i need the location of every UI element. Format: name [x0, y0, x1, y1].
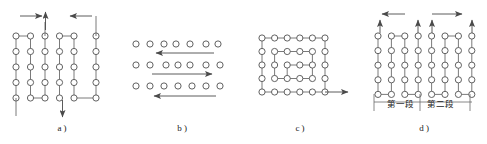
conductor-node — [13, 64, 19, 70]
conductor-node — [284, 62, 290, 68]
conductor-node — [429, 62, 435, 68]
conductor-node — [469, 48, 475, 54]
conductor-node — [455, 48, 461, 54]
conductor-node — [402, 48, 408, 54]
conductor-node — [415, 33, 421, 39]
panel-c: c ) — [259, 35, 348, 133]
conductor-node — [71, 48, 77, 54]
conductor-node — [203, 41, 209, 47]
conductor-node — [217, 83, 223, 89]
conductor-node — [42, 64, 48, 70]
conductor-node — [272, 62, 278, 68]
conductor-node — [42, 79, 48, 85]
conductor-node — [415, 48, 421, 54]
conductor-node — [455, 62, 461, 68]
conductor-node — [429, 48, 435, 54]
conductor-node — [93, 48, 99, 54]
conductor-node — [272, 48, 278, 54]
conductor-node — [375, 91, 381, 97]
conductor-node — [259, 89, 265, 95]
conductor-node — [203, 83, 209, 89]
conductor-node — [27, 33, 33, 39]
conductor-node — [469, 77, 475, 83]
panel-b: b ) — [133, 41, 223, 133]
conductor-node — [259, 48, 265, 54]
conductor-node — [322, 62, 328, 68]
conductor-node — [284, 48, 290, 54]
conductor-node — [27, 95, 33, 101]
panel-caption-c: c ) — [295, 123, 304, 133]
conductor-node — [309, 89, 315, 95]
conductor-node — [189, 83, 195, 89]
panel-caption-a: a ) — [57, 123, 66, 133]
conductor-node — [375, 62, 381, 68]
panel-a: a ) — [13, 12, 99, 133]
conductor-node — [322, 35, 328, 41]
conductor-node — [388, 33, 394, 39]
conductor-node — [402, 77, 408, 83]
conductor-node — [259, 75, 265, 81]
conductor-node — [309, 48, 315, 54]
conductor-node — [259, 35, 265, 41]
winding-diagram-figure: a )b )c )第一段第二段d ) — [0, 0, 487, 144]
conductor-node — [388, 48, 394, 54]
conductor-node — [27, 64, 33, 70]
conductor-node — [309, 35, 315, 41]
conductor-node — [56, 95, 62, 101]
conductor-node — [147, 83, 153, 89]
conductor-node — [455, 33, 461, 39]
conductor-node — [442, 77, 448, 83]
panel-d: 第一段第二段d ) — [374, 14, 475, 133]
conductor-node — [56, 64, 62, 70]
conductor-node — [442, 91, 448, 97]
conductor-node — [42, 48, 48, 54]
conductor-node — [309, 75, 315, 81]
conductor-node — [388, 91, 394, 97]
conductor-node — [42, 95, 48, 101]
conductor-node — [259, 62, 265, 68]
conductor-node — [175, 62, 181, 68]
conductor-node — [455, 77, 461, 83]
conductor-node — [429, 77, 435, 83]
section-label-2: 第二段 — [427, 99, 454, 109]
conductor-node — [402, 33, 408, 39]
conductor-node — [309, 62, 315, 68]
conductor-node — [375, 33, 381, 39]
conductor-node — [429, 91, 435, 97]
conductor-node — [93, 95, 99, 101]
conductor-node — [147, 62, 153, 68]
conductor-node — [203, 62, 209, 68]
conductor-node — [297, 48, 303, 54]
conductor-node — [13, 48, 19, 54]
conductor-node — [56, 48, 62, 54]
conductor-node — [375, 48, 381, 54]
conductor-node — [173, 41, 179, 47]
conductor-node — [93, 79, 99, 85]
conductor-node — [27, 48, 33, 54]
conductor-node — [322, 75, 328, 81]
conductor-node — [297, 62, 303, 68]
conductor-node — [388, 77, 394, 83]
conductor-node — [71, 79, 77, 85]
conductor-node — [163, 62, 169, 68]
panel-caption-b: b ) — [177, 123, 187, 133]
section-label-1: 第一段 — [387, 99, 414, 109]
conductor-node — [415, 62, 421, 68]
conductor-node — [56, 33, 62, 39]
conductor-node — [469, 33, 475, 39]
conductor-node — [297, 89, 303, 95]
conductor-node — [147, 41, 153, 47]
panel-caption-d: d ) — [419, 123, 429, 133]
conductor-node — [175, 83, 181, 89]
conductor-node — [284, 89, 290, 95]
conductor-node — [13, 79, 19, 85]
conductor-node — [71, 33, 77, 39]
conductor-node — [415, 77, 421, 83]
conductor-node — [56, 79, 62, 85]
conductor-node — [375, 77, 381, 83]
conductor-node — [455, 91, 461, 97]
conductor-node — [322, 48, 328, 54]
conductor-node — [442, 62, 448, 68]
conductor-node — [217, 62, 223, 68]
conductor-node — [442, 48, 448, 54]
